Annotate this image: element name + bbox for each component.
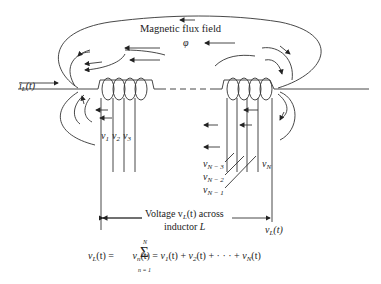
caption-L: L (200, 221, 206, 232)
eq-vN-arg: (t) (251, 250, 260, 261)
inductor-diagram (0, 0, 381, 284)
right-coil (227, 78, 272, 100)
eq-term-arg: (t) = (140, 250, 160, 261)
current-arg: (t) (26, 80, 35, 91)
eq-ellipsis: · · · (217, 250, 235, 261)
sum-equation: vL(t) = vn(t) = v1(t) + v2(t) + · · · + … (88, 251, 261, 263)
sum-lower-limit: n = 1 (138, 267, 151, 273)
caption-text: Voltage v (145, 208, 183, 219)
eq-plus-3: + (234, 250, 242, 261)
eq-plus-2: + (206, 250, 217, 261)
left-coil (102, 78, 147, 100)
flux-field-title: Magnetic flux field (140, 24, 221, 35)
v3-sub: 3 (127, 135, 131, 143)
lower-left-loop (60, 92, 95, 145)
terminal-voltage-label: vL(t) (265, 225, 283, 237)
vn3-sub: N − 3 (207, 163, 223, 171)
eq-plus-1: + (178, 250, 189, 261)
voltage-v1-label: v1 (101, 131, 109, 143)
flux-symbol: φ (183, 38, 189, 48)
eq-v1-arg: (t) (168, 250, 177, 261)
v2-sub: 2 (116, 135, 120, 143)
vn2-sub: N − 2 (207, 176, 223, 184)
voltage-v3-label: v3 (123, 131, 131, 143)
voltage-vn2-label: vN − 2 (203, 172, 224, 184)
caption-rest: (t) across (187, 208, 224, 219)
v1-sub: 1 (105, 135, 109, 143)
eq-lhs-arg: (t) = (96, 250, 116, 261)
voltage-caption-line2: inductor L (164, 222, 205, 232)
voltage-v2-label: v2 (112, 131, 120, 143)
caption-line2-text: inductor (164, 221, 200, 232)
eq-v2-arg: (t) (196, 250, 205, 261)
voltage-vn1-label: vN − 1 (203, 185, 224, 197)
vN-sub: N (266, 163, 271, 171)
vn1-sub: N − 1 (207, 189, 223, 197)
voltage-caption-line1: Voltage vL(t) across (145, 209, 224, 221)
voltage-vn3-label: vN − 3 (203, 159, 224, 171)
terminal-arg: (t) (273, 224, 282, 235)
voltage-vN-label: vN (262, 159, 271, 171)
current-label: iL(t) (19, 81, 35, 93)
